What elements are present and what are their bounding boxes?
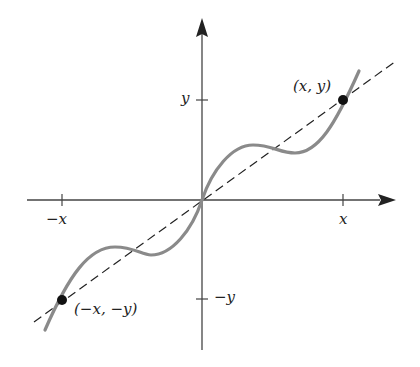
x-tick-neg-label: −x (46, 212, 67, 227)
x-tick-pos-label: x (339, 212, 347, 227)
point-neg-xy (57, 295, 67, 305)
figure: −x x y −y (x, y) (−x, −y) (0, 0, 420, 367)
graph-canvas (0, 0, 420, 367)
point-neg-xy-label: (−x, −y) (74, 302, 137, 317)
point-xy (338, 95, 348, 105)
y-tick-neg-label: −y (214, 290, 235, 305)
y-tick-pos-label: y (181, 91, 189, 106)
point-xy-label: (x, y) (293, 79, 331, 94)
x-axis-arrow-icon (378, 194, 396, 206)
